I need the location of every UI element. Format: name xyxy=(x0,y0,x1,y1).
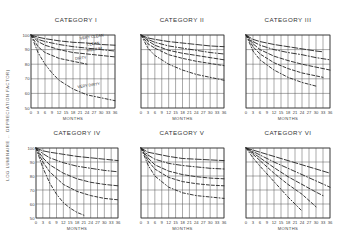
svg-text:27: 27 xyxy=(95,220,100,225)
svg-text:36: 36 xyxy=(116,220,121,225)
svg-text:18: 18 xyxy=(180,110,185,115)
svg-text:15: 15 xyxy=(173,110,178,115)
figure: CATEGORY I036912151821242730333610090807… xyxy=(0,0,349,243)
svg-text:VERY DIRTY: VERY DIRTY xyxy=(77,82,100,89)
svg-text:36: 36 xyxy=(328,110,333,115)
svg-text:6: 6 xyxy=(154,220,157,225)
svg-text:CLEAN: CLEAN xyxy=(87,41,100,47)
chart-title: CATEGORY V xyxy=(160,129,205,136)
grid xyxy=(246,35,330,108)
svg-text:50: 50 xyxy=(25,106,30,111)
grid xyxy=(31,35,115,108)
svg-text:27: 27 xyxy=(307,110,312,115)
svg-text:70: 70 xyxy=(30,188,35,193)
svg-text:24: 24 xyxy=(194,220,199,225)
svg-text:18: 18 xyxy=(286,220,291,225)
svg-text:0: 0 xyxy=(245,220,248,225)
svg-text:12: 12 xyxy=(61,220,66,225)
x-axis-label: MONTHS xyxy=(278,226,299,231)
svg-text:33: 33 xyxy=(109,220,114,225)
svg-text:VERY CLEAN: VERY CLEAN xyxy=(80,33,104,40)
svg-text:6: 6 xyxy=(259,220,262,225)
svg-text:12: 12 xyxy=(166,220,171,225)
svg-text:9: 9 xyxy=(266,110,269,115)
chart-title: CATEGORY III xyxy=(265,16,312,23)
chart-title: CATEGORY II xyxy=(160,16,205,23)
svg-text:36: 36 xyxy=(222,110,227,115)
svg-text:24: 24 xyxy=(85,110,90,115)
svg-text:30: 30 xyxy=(208,220,213,225)
svg-text:27: 27 xyxy=(92,110,97,115)
svg-text:9: 9 xyxy=(51,110,54,115)
svg-text:0: 0 xyxy=(30,110,33,115)
svg-text:36: 36 xyxy=(113,110,118,115)
svg-text:15: 15 xyxy=(279,110,284,115)
x-tick-labels: 0369121518212427303336 xyxy=(140,110,227,115)
svg-text:12: 12 xyxy=(272,110,277,115)
svg-text:9: 9 xyxy=(161,220,164,225)
svg-text:0: 0 xyxy=(140,110,143,115)
x-tick-labels: 0369121518212427303336 xyxy=(30,110,118,115)
svg-text:15: 15 xyxy=(68,220,73,225)
svg-text:9: 9 xyxy=(266,220,269,225)
svg-text:MEDIUM: MEDIUM xyxy=(87,47,103,53)
svg-text:90: 90 xyxy=(25,47,30,52)
svg-text:24: 24 xyxy=(300,220,305,225)
svg-text:30: 30 xyxy=(314,220,319,225)
x-axis-label: MONTHS xyxy=(63,116,84,121)
chart-panel-6: CATEGORY VI0369121518212427303336MONTHS xyxy=(245,129,333,231)
series-line xyxy=(246,35,323,52)
svg-text:21: 21 xyxy=(293,110,298,115)
svg-text:80: 80 xyxy=(25,62,30,67)
chart-panel-3: CATEGORY III0369121518212427303336MONTHS xyxy=(245,16,333,121)
svg-text:21: 21 xyxy=(187,220,192,225)
svg-text:33: 33 xyxy=(106,110,111,115)
chart-title: CATEGORY I xyxy=(55,16,97,23)
chart-panel-1: CATEGORY I036912151821242730333610090807… xyxy=(23,16,118,121)
chart-panel-4: CATEGORY IV03691215182124273033361009080… xyxy=(28,129,121,231)
svg-text:15: 15 xyxy=(173,220,178,225)
x-axis-label: MONTHS xyxy=(278,116,299,121)
svg-text:27: 27 xyxy=(201,110,206,115)
svg-text:30: 30 xyxy=(99,110,104,115)
svg-text:12: 12 xyxy=(166,110,171,115)
svg-text:30: 30 xyxy=(102,220,107,225)
svg-text:33: 33 xyxy=(321,220,326,225)
y-tick-labels: 1009080706050 xyxy=(23,33,31,111)
x-tick-labels: 0369121518212427303336 xyxy=(245,110,333,115)
x-tick-labels: 0369121518212427303336 xyxy=(35,220,121,225)
grid xyxy=(246,148,330,218)
svg-text:0: 0 xyxy=(245,110,248,115)
svg-text:33: 33 xyxy=(215,220,220,225)
svg-text:3: 3 xyxy=(42,220,45,225)
svg-text:50: 50 xyxy=(30,216,35,221)
svg-text:27: 27 xyxy=(307,220,312,225)
svg-text:30: 30 xyxy=(314,110,319,115)
curve-labels: VERY CLEANCLEANMEDIUMDIRTYVERY DIRTY xyxy=(75,33,104,89)
svg-text:3: 3 xyxy=(147,110,150,115)
svg-text:21: 21 xyxy=(81,220,86,225)
svg-text:24: 24 xyxy=(194,110,199,115)
svg-text:60: 60 xyxy=(25,91,30,96)
svg-text:DIRTY: DIRTY xyxy=(75,56,87,62)
x-axis-label: MONTHS xyxy=(67,226,88,231)
x-tick-labels: 0369121518212427303336 xyxy=(140,220,227,225)
x-tick-labels: 0369121518212427303336 xyxy=(245,220,333,225)
svg-text:12: 12 xyxy=(272,220,277,225)
svg-text:21: 21 xyxy=(187,110,192,115)
svg-text:3: 3 xyxy=(252,220,255,225)
x-axis-label: MONTHS xyxy=(172,116,193,121)
svg-text:33: 33 xyxy=(321,110,326,115)
svg-text:33: 33 xyxy=(215,110,220,115)
svg-text:60: 60 xyxy=(30,202,35,207)
svg-text:0: 0 xyxy=(35,220,38,225)
svg-text:30: 30 xyxy=(208,110,213,115)
svg-text:18: 18 xyxy=(180,220,185,225)
svg-text:36: 36 xyxy=(222,220,227,225)
svg-text:21: 21 xyxy=(293,220,298,225)
svg-text:6: 6 xyxy=(154,110,157,115)
svg-text:3: 3 xyxy=(147,220,150,225)
svg-text:3: 3 xyxy=(37,110,40,115)
svg-text:6: 6 xyxy=(259,110,262,115)
svg-text:100: 100 xyxy=(23,33,31,38)
